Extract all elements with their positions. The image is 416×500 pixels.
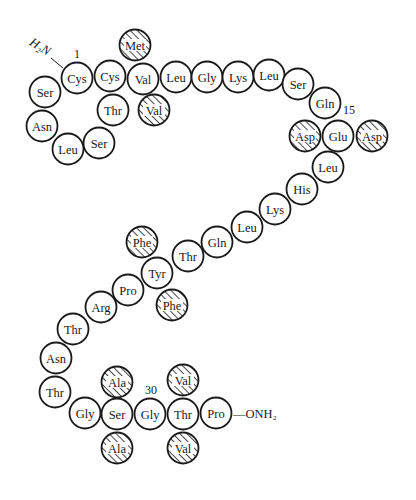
residue-label: Asp — [362, 130, 382, 144]
residue-label: Leu — [58, 143, 78, 157]
residue: Glu — [323, 121, 354, 152]
residue-label: Thr — [64, 323, 83, 337]
residue: Thr — [40, 377, 71, 408]
residue: Asn — [27, 111, 58, 142]
residue-substitution: Ala — [102, 433, 133, 464]
residue: Gln — [202, 227, 233, 258]
residue: Leu — [313, 152, 344, 183]
residue: Gly — [192, 62, 223, 93]
residue-label: Arg — [91, 301, 111, 315]
residue: Gln — [310, 88, 341, 119]
residue-label: Gly — [76, 407, 96, 421]
peptide-diagram: H₂N CysSerAsnLeuSerThrCysMetValValLeuGly… — [0, 0, 416, 500]
residue-label: Val — [146, 104, 163, 118]
residue: Cys — [62, 63, 93, 94]
residue-label: Gly — [141, 408, 161, 422]
residue-label: Leu — [259, 69, 279, 83]
residue-label: Ser — [37, 86, 55, 100]
residue-label: Met — [125, 39, 146, 53]
residue-label: Asn — [46, 352, 67, 366]
residue-chain: CysSerAsnLeuSerThrCysMetValValLeuGlyLysL… — [27, 30, 388, 464]
residue-label: Cys — [100, 70, 120, 84]
residue-label: Ser — [109, 408, 127, 422]
residue: Gly — [70, 398, 101, 429]
position-number-label: 30 — [145, 383, 157, 397]
position-number-label: 15 — [343, 103, 355, 117]
residue-label: Ser — [91, 137, 109, 151]
residue-label: Leu — [237, 221, 257, 235]
residue-label: Glu — [329, 130, 349, 144]
residue-substitution: Val — [139, 95, 170, 126]
residue-label: Pro — [207, 407, 224, 421]
residue-label: Thr — [46, 386, 65, 400]
residue: Leu — [232, 212, 263, 243]
residue-label: Tyr — [148, 267, 166, 281]
residue-label: Lys — [266, 203, 284, 217]
residue-label: Thr — [174, 408, 193, 422]
residue-substitution: Ala — [102, 367, 133, 398]
residue-label: Ser — [290, 78, 308, 92]
residue-substitution: Met — [120, 30, 151, 61]
residue-label: Ala — [108, 442, 127, 456]
residue-label: Phe — [133, 236, 152, 250]
residue-label: Gln — [208, 236, 228, 250]
residue: Asn — [41, 343, 72, 374]
residue-label: Val — [175, 442, 192, 456]
residue-label: Val — [175, 374, 192, 388]
c-terminus-label: —ONH₂ — [232, 407, 277, 421]
residue-label: Val — [135, 73, 152, 87]
residue-substitution: Asp — [357, 121, 388, 152]
residue-label: Gln — [316, 97, 336, 111]
residue-substitution: Phe — [157, 290, 188, 321]
n-terminus-label: H₂N — [26, 34, 53, 58]
residue: Ser — [30, 77, 61, 108]
residue: Leu — [53, 134, 84, 165]
residue-label: Phe — [163, 299, 182, 313]
residue-label: Pro — [119, 284, 136, 298]
residue: Pro — [201, 398, 232, 429]
residue-label: Ala — [108, 376, 127, 390]
n-terminus-bond — [51, 58, 63, 68]
residue-label: Gly — [198, 71, 218, 85]
residue: His — [287, 174, 318, 205]
residue: Pro — [113, 275, 144, 306]
residue: Cys — [95, 61, 126, 92]
residue: Thr — [168, 399, 199, 430]
residue-label: Thr — [104, 104, 123, 118]
position-number-label: 1 — [74, 47, 80, 61]
residue-label: His — [293, 183, 311, 197]
residue-label: Lys — [229, 71, 247, 85]
residue: Leu — [254, 60, 285, 91]
residue: Val — [128, 64, 159, 95]
residue-substitution: Val — [168, 365, 199, 396]
residue: Thr — [98, 95, 129, 126]
residue-substitution: Asp — [290, 121, 321, 152]
residue-label: Asn — [32, 120, 53, 134]
residue-substitution: Val — [168, 433, 199, 464]
residue-label: Cys — [67, 72, 87, 86]
residue: Ser — [283, 69, 314, 100]
residue-label: Asp — [295, 130, 315, 144]
residue: Leu — [161, 62, 192, 93]
residue: Ser — [102, 399, 133, 430]
residue-label: Thr — [179, 250, 198, 264]
residue-label: Leu — [166, 71, 186, 85]
residue: Gly — [135, 399, 166, 430]
residue: Lys — [260, 194, 291, 225]
n-terminus: H₂N — [26, 34, 63, 68]
residue: Tyr — [142, 258, 173, 289]
residue: Thr — [173, 241, 204, 272]
residue: Arg — [86, 292, 117, 323]
residue: Ser — [84, 128, 115, 159]
residue: Lys — [223, 62, 254, 93]
residue: Thr — [58, 314, 89, 345]
residue-substitution: Phe — [127, 227, 158, 258]
residue-label: Leu — [318, 161, 338, 175]
